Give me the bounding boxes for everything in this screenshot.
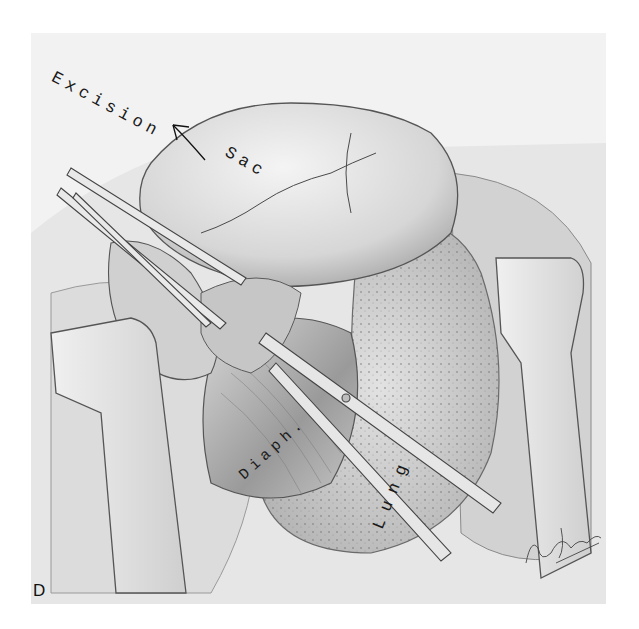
panel-letter: D bbox=[33, 581, 45, 601]
surgical-illustration: Excision Sac Diaph. Lung bbox=[31, 33, 606, 604]
